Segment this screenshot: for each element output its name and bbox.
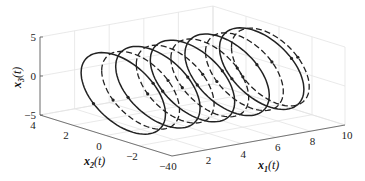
direction-marker [92, 102, 95, 105]
direction-marker [241, 75, 244, 78]
direction-marker [221, 69, 224, 72]
direction-marker [270, 60, 273, 63]
direction-marker [126, 96, 129, 99]
direction-marker [201, 73, 204, 76]
x3-tick-label: 5 [31, 31, 37, 43]
x1-tick-label: 6 [275, 141, 281, 153]
x1-tick-label: 10 [342, 129, 354, 141]
x1-tick-label: 0 [171, 160, 177, 172]
direction-marker [181, 86, 184, 89]
x2-tick-label: −2 [126, 150, 138, 162]
x3-tick-label: 0 [31, 70, 37, 82]
direction-marker [112, 98, 115, 101]
trajectory-curves [81, 28, 309, 134]
x2-axis-line [40, 115, 172, 156]
x1-tick-label: 4 [240, 148, 246, 160]
x2-tick-label: 2 [63, 129, 69, 141]
direction-marker [196, 83, 199, 86]
trajectory-dashed-loop [206, 33, 284, 111]
trajectory-solid-loop [220, 28, 304, 110]
direction-marker [186, 75, 189, 78]
direction-marker [146, 92, 149, 95]
x1-tick-label: 2 [206, 154, 212, 166]
x1-tick-label: 8 [310, 135, 316, 147]
grid-line [40, 6, 213, 37]
direction-marker [152, 82, 155, 85]
x2-tick-label: 4 [30, 119, 36, 131]
x2-tick-label: −4 [159, 160, 171, 172]
3d-trajectory-chart: 50−5420−2−40246810 x3(t) x2(t) x1(t) [0, 0, 365, 181]
x3-axis-label: x3(t) [10, 67, 26, 89]
direction-marker [166, 79, 169, 82]
direction-marker [255, 63, 258, 66]
direction-marker [296, 56, 299, 59]
x1-axis-line [172, 125, 345, 156]
direction-marker [161, 90, 164, 93]
x2-axis-label: x2(t) [83, 154, 105, 170]
x2-tick-label: 0 [96, 140, 102, 152]
direction-marker [290, 57, 293, 60]
grid-line [106, 105, 279, 136]
direction-marker [215, 80, 218, 83]
x1-axis-label: x1(t) [257, 158, 279, 174]
direction-marker [230, 77, 233, 80]
grid-line [40, 84, 213, 115]
axes [40, 37, 345, 156]
